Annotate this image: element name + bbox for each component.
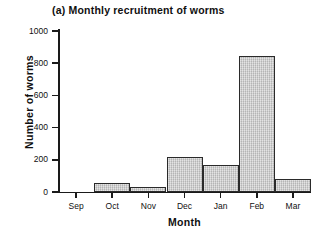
bar-mar[interactable] bbox=[275, 179, 311, 192]
bar-nov[interactable] bbox=[130, 187, 166, 192]
y-tick-mark-0 bbox=[52, 191, 58, 193]
x-tick-mark-oct bbox=[111, 192, 113, 198]
y-tick-mark-600 bbox=[52, 95, 58, 97]
x-axis-title: Month bbox=[58, 216, 311, 228]
x-tick-mark-mar bbox=[292, 192, 294, 198]
x-tick-label-oct: Oct bbox=[92, 201, 132, 211]
x-tick-label-mar: Mar bbox=[273, 201, 313, 211]
y-tick-label-0: 0 bbox=[18, 188, 48, 197]
x-tick-label-jan: Jan bbox=[201, 201, 241, 211]
x-tick-label-feb: Feb bbox=[237, 201, 277, 211]
bar-oct[interactable] bbox=[94, 183, 130, 192]
figure-panel-a: (a) Monthly recruitment of worms 0 200 4… bbox=[0, 0, 326, 245]
x-tick-label-sep: Sep bbox=[56, 201, 96, 211]
bar-jan[interactable] bbox=[203, 165, 239, 192]
bar-dec[interactable] bbox=[167, 157, 203, 192]
y-tick-mark-800 bbox=[52, 62, 58, 64]
x-tick-mark-jan bbox=[220, 192, 222, 198]
x-tick-mark-sep bbox=[75, 192, 77, 198]
x-tick-label-nov: Nov bbox=[128, 201, 168, 211]
y-tick-mark-1000 bbox=[52, 30, 58, 32]
x-tick-mark-feb bbox=[256, 192, 258, 198]
x-tick-label-dec: Dec bbox=[165, 201, 205, 211]
x-tick-mark-nov bbox=[148, 192, 150, 198]
x-tick-mark-dec bbox=[184, 192, 186, 198]
y-axis-line bbox=[58, 29, 60, 193]
y-tick-mark-200 bbox=[52, 159, 58, 161]
y-tick-mark-400 bbox=[52, 127, 58, 129]
y-axis-title: Number of worms bbox=[23, 32, 35, 172]
chart-title: (a) Monthly recruitment of worms bbox=[52, 4, 225, 16]
bar-feb[interactable] bbox=[239, 56, 275, 192]
